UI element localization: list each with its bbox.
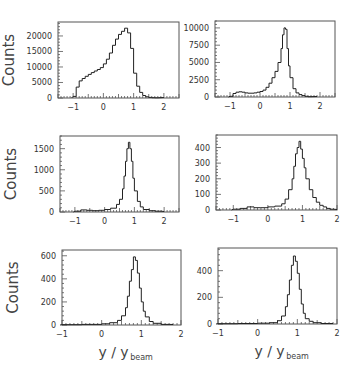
x-tick-label: 0: [102, 217, 107, 226]
histogram-panel-top-right: −1012025005000750010000: [184, 21, 335, 111]
x-tick-label: 1: [132, 217, 137, 226]
y-tick-label: 100: [195, 190, 210, 199]
histogram-panel-bottom-left: −10120200400600Countsy / ybeam: [4, 250, 184, 362]
x-tick-label: 1: [131, 103, 136, 112]
y-tick-label: 15000: [27, 47, 52, 56]
x-axis-label-subscript: beam: [286, 352, 309, 361]
y-tick-label: 7500: [189, 41, 209, 50]
histogram-line: [216, 256, 333, 324]
y-tick-label: 300: [195, 159, 210, 168]
y-tick-label: 500: [39, 187, 54, 196]
y-tick-label: 5000: [32, 78, 52, 87]
y-axis-label: Counts: [2, 148, 20, 201]
x-tick-label: 2: [334, 215, 339, 224]
x-axis-label: y / y: [254, 343, 284, 359]
plot-frame: [216, 135, 337, 210]
x-tick-label: 2: [178, 330, 183, 339]
x-axis-label: y / y: [98, 344, 128, 360]
histogram-panel-middle-left: −1012050010001500Counts: [2, 136, 179, 226]
x-tick-label: 0: [265, 215, 270, 224]
histogram-line: [232, 141, 337, 210]
x-tick-label: 2: [317, 102, 322, 111]
y-tick-label: 2500: [189, 76, 209, 85]
x-tick-label: −1: [56, 330, 68, 339]
x-tick-label: −1: [67, 103, 79, 112]
x-axis-label-subscript: beam: [130, 353, 153, 362]
x-tick-label: 1: [287, 102, 292, 111]
histogram-panel-bottom-right: −10120200400y / ybeam: [197, 248, 340, 361]
x-tick-label: −1: [212, 329, 224, 338]
y-tick-label: 10000: [184, 24, 209, 33]
y-tick-label: 400: [195, 144, 210, 153]
x-tick-label: 1: [295, 329, 300, 338]
y-tick-label: 200: [197, 293, 212, 302]
histogram-figure: −101205000100001500020000Counts−10120250…: [0, 0, 354, 374]
x-tick-label: −1: [224, 102, 236, 111]
x-tick-label: −1: [227, 215, 239, 224]
y-axis-label: Counts: [4, 261, 22, 314]
plot-frame: [218, 248, 337, 324]
y-tick-label: 200: [41, 298, 56, 307]
x-tick-label: 1: [139, 330, 144, 339]
histogram-line: [72, 28, 164, 98]
x-tick-label: 0: [99, 330, 104, 339]
histogram-panel-top-left: −101205000100001500020000Counts: [0, 22, 179, 112]
x-tick-label: 2: [161, 103, 166, 112]
y-tick-label: 0: [205, 206, 210, 215]
x-tick-label: 2: [162, 217, 167, 226]
histogram-line: [229, 28, 318, 97]
y-tick-label: 400: [41, 275, 56, 284]
x-tick-label: 0: [257, 102, 262, 111]
histogram-line: [73, 142, 164, 212]
x-tick-label: 2: [334, 329, 339, 338]
histogram-panel-middle-right: −10120100200300400: [195, 135, 340, 224]
x-tick-label: 1: [300, 215, 305, 224]
x-tick-label: 0: [255, 329, 260, 338]
y-tick-label: 400: [197, 267, 212, 276]
plot-frame: [62, 250, 181, 325]
x-tick-label: 0: [101, 103, 106, 112]
x-tick-label: −1: [69, 217, 81, 226]
y-tick-label: 0: [47, 94, 52, 103]
plot-frame: [215, 21, 335, 97]
y-tick-label: 0: [207, 320, 212, 329]
y-tick-label: 200: [195, 175, 210, 184]
y-tick-label: 20000: [27, 32, 52, 41]
y-tick-label: 0: [49, 208, 54, 217]
histogram-line: [60, 257, 173, 325]
y-tick-label: 10000: [27, 63, 52, 72]
y-tick-label: 0: [204, 93, 209, 102]
y-axis-label: Counts: [0, 34, 18, 87]
y-tick-label: 0: [51, 321, 56, 330]
y-tick-label: 1000: [34, 166, 54, 175]
y-tick-label: 5000: [189, 58, 209, 67]
y-tick-label: 1500: [34, 145, 54, 154]
y-tick-label: 600: [41, 252, 56, 261]
